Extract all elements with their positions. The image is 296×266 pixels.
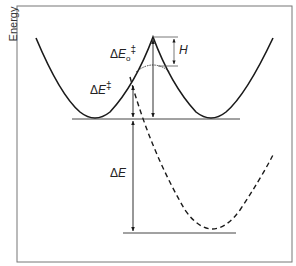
plot-frame: [17, 6, 292, 262]
label-delta-e-ddagger: ΔE‡: [90, 80, 112, 97]
energy-diagram: [0, 0, 296, 266]
y-axis-label: Energy: [7, 0, 19, 49]
label-h: H: [179, 43, 188, 57]
label-delta-e: ΔE: [110, 166, 126, 180]
dashed-parabola: [130, 77, 273, 229]
label-delta-e0-ddagger: ΔEo‡: [110, 44, 136, 63]
double-well-curve: [36, 37, 273, 118]
